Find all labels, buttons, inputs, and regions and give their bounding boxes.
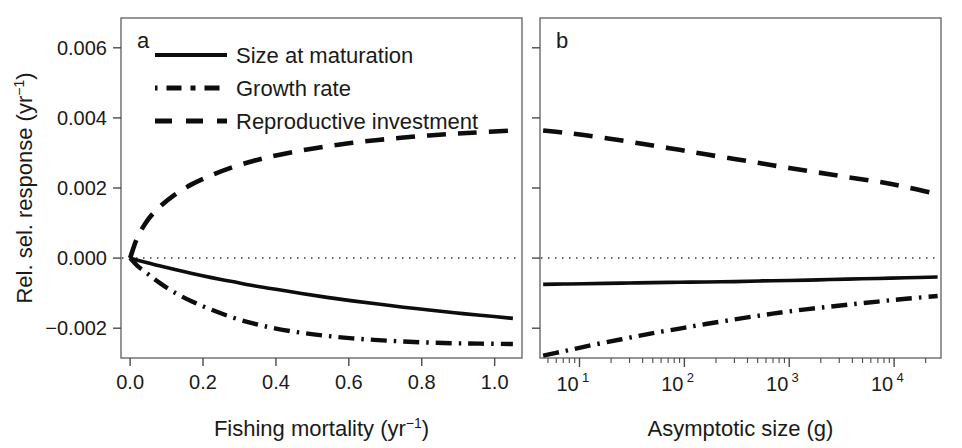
panel-letter-b: b	[556, 28, 568, 53]
x-tick-label-3: 10	[871, 373, 893, 395]
x-tick-label-1: 0.2	[189, 371, 217, 393]
figure-svg: −0.0020.0000.0020.0040.0060.00.20.40.60.…	[0, 0, 962, 448]
legend-label-0: Size at maturation	[236, 43, 413, 68]
legend-label-1: Growth rate	[236, 76, 351, 101]
series-line-b-dashed	[543, 131, 937, 195]
series-line-a-solid	[130, 258, 513, 318]
panel-letter-a: a	[137, 28, 150, 53]
x-tick-exponent-3: 4	[896, 370, 903, 385]
legend-label-2: Reproductive investment	[236, 109, 478, 134]
panel-b: 101102103104bAsymptotic size (g)	[532, 18, 941, 441]
y-tick-label-1: 0.000	[57, 247, 107, 269]
x-tick-exponent-1: 2	[687, 370, 694, 385]
series-line-a-dashed	[130, 131, 513, 259]
x-tick-label-4: 0.8	[408, 371, 436, 393]
x-tick-label-3: 0.6	[335, 371, 363, 393]
y-axis-title: Rel. sel. response (yr−1)	[11, 72, 37, 303]
plot-frame-a	[121, 18, 522, 358]
x-tick-label-2: 10	[766, 373, 788, 395]
x-tick-label-0: 0.0	[116, 371, 144, 393]
chart-legend: Size at maturationGrowth rateReproductiv…	[155, 43, 478, 134]
x-axis-title-b: Asymptotic size (g)	[648, 416, 834, 441]
x-axis-title-a: Fishing mortality (yr−1)	[214, 415, 429, 441]
plot-frame-b	[540, 18, 941, 358]
series-line-b-dashdot	[543, 296, 937, 356]
x-tick-label-1: 10	[661, 373, 683, 395]
x-tick-exponent-2: 3	[792, 370, 799, 385]
y-tick-label-0: −0.002	[45, 317, 107, 339]
x-tick-label-5: 1.0	[481, 371, 509, 393]
x-tick-label-0: 10	[556, 373, 578, 395]
series-line-b-solid	[543, 277, 937, 284]
y-tick-label-2: 0.002	[57, 177, 107, 199]
y-tick-label-3: 0.004	[57, 107, 107, 129]
y-tick-label-4: 0.006	[57, 37, 107, 59]
x-tick-label-2: 0.4	[262, 371, 290, 393]
x-tick-exponent-0: 1	[582, 370, 589, 385]
figure-container: −0.0020.0000.0020.0040.0060.00.20.40.60.…	[0, 0, 962, 448]
